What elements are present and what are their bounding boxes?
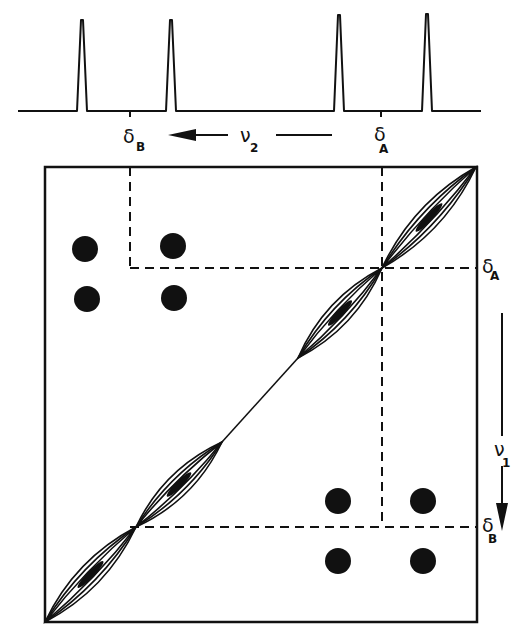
nu2-subscript: 2	[250, 141, 258, 155]
cross-peak-1	[160, 233, 186, 259]
cross-peak-7	[410, 548, 436, 574]
nu1-subscript: 1	[502, 456, 510, 470]
contour-plot	[45, 167, 477, 622]
delta-b-side-label: δ B	[482, 514, 497, 546]
delta-a-side-label: δ A	[482, 255, 500, 283]
cross-peak-2	[74, 286, 100, 312]
delta-b-subscript: B	[136, 140, 145, 154]
delta-a-subscript: A	[379, 142, 389, 156]
plot-frame	[45, 167, 477, 622]
delta-a-marker: δ A	[374, 123, 389, 156]
cross-peak-0	[72, 236, 98, 262]
one-dimensional-spectrum	[18, 14, 481, 117]
diagonal-peak-3-core	[413, 201, 444, 234]
nu1-axis-label: ν 1	[494, 313, 510, 531]
nu2-axis-label: ν 2	[168, 124, 332, 155]
spectrum-trace	[18, 14, 481, 111]
diagonal-line	[222, 358, 298, 442]
delta-a-side-subscript: A	[490, 269, 500, 283]
cross-peak-4	[325, 488, 351, 514]
cross-peak-6	[325, 548, 351, 574]
nu2-arrowhead-icon	[168, 129, 196, 141]
delta-b-side-subscript: B	[488, 532, 497, 546]
cross-peak-5	[410, 488, 436, 514]
nu1-arrowhead-icon	[496, 503, 508, 531]
nmr-2d-diagram: ν 2 δ B δ A δ A δ B ν 1	[0, 0, 525, 643]
delta-b-symbol: δ	[123, 125, 135, 147]
delta-b-marker: δ B	[123, 125, 145, 154]
cross-peak-3	[161, 285, 187, 311]
